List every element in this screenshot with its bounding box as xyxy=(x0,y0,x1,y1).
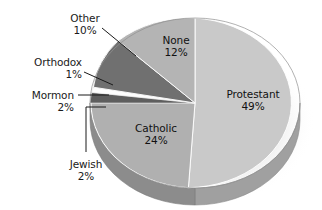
slice-label-protestant-name: Protestant xyxy=(212,88,294,100)
slice-label-mormon-name: Mormon xyxy=(2,89,74,101)
pie-chart-figure: Other 10% Orthodox 1% Mormon 2% Jewish 2… xyxy=(0,0,322,210)
slice-label-mormon: Mormon 2% xyxy=(2,89,74,113)
slice-label-other: Other 10% xyxy=(52,12,118,36)
slice-label-orthodox: Orthodox 1% xyxy=(4,56,82,80)
slice-label-other-value: 10% xyxy=(52,24,118,36)
slice-label-mormon-value: 2% xyxy=(2,101,74,113)
slice-label-jewish-value: 2% xyxy=(52,170,120,182)
slice-label-orthodox-name: Orthodox xyxy=(4,56,82,68)
slice-label-none: None 12% xyxy=(146,34,206,58)
slice-label-none-name: None xyxy=(146,34,206,46)
slice-label-none-value: 12% xyxy=(146,46,206,58)
slice-label-jewish-name: Jewish xyxy=(52,158,120,170)
slice-label-orthodox-value: 1% xyxy=(4,68,82,80)
slice-label-jewish: Jewish 2% xyxy=(52,158,120,182)
slice-label-protestant-value: 49% xyxy=(212,100,294,112)
slice-label-catholic-name: Catholic xyxy=(120,122,192,134)
slice-label-protestant: Protestant 49% xyxy=(212,88,294,112)
slice-label-catholic: Catholic 24% xyxy=(120,122,192,146)
slice-label-catholic-value: 24% xyxy=(120,134,192,146)
slice-label-other-name: Other xyxy=(52,12,118,24)
